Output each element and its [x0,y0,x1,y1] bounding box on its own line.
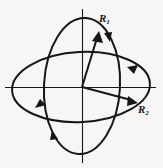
vector-r2 [82,87,138,106]
orbit-diagram-figure: R1 R2 [0,0,163,168]
vector-r2-label: R2 [138,104,149,115]
vector-r2-shaft [82,87,131,100]
vector-r1-arrowhead [92,31,103,43]
vector-r2-arrowhead [127,96,138,106]
diagram-canvas [0,0,163,168]
vector-r1-label-subscript: 1 [106,18,110,26]
vector-r1-shaft [82,38,97,87]
vector-r2-label-subscript: 2 [145,109,149,117]
vector-r1-label: R1 [99,13,110,24]
vector-r1 [82,31,103,87]
horizontal-ellipse-upper-right-arrowhead [127,65,138,74]
vertical-ellipse-direction-arrows [50,32,112,140]
axis-lines [5,9,156,163]
